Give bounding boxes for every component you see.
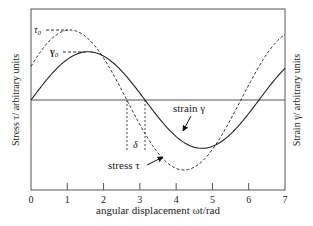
y-axis-right-label: Strain γ/ arbitrary units xyxy=(291,54,302,147)
y-axis-left-label: Stress τ/ arbitrary units xyxy=(10,54,21,146)
x-tick-label: 0 xyxy=(29,194,34,205)
strain-annotation-arrow xyxy=(183,116,191,131)
tau0-label: τ0 xyxy=(34,24,42,37)
stress-annotation-arrow xyxy=(147,157,163,165)
x-axis-label: angular displacement ωt/rad xyxy=(96,204,220,216)
x-axis-ticks xyxy=(67,183,248,190)
x-tick-label: 7 xyxy=(283,194,288,205)
x-tick-label: 6 xyxy=(246,194,251,205)
gamma0-label: γ0 xyxy=(49,46,59,59)
chart-figure: τ0 γ0 δ strain γ stress τ 01234567 angul… xyxy=(0,0,313,226)
x-tick-label: 1 xyxy=(65,194,70,205)
strain-annotation: strain γ xyxy=(173,102,205,114)
delta-label: δ xyxy=(133,139,138,150)
stress-annotation: stress τ xyxy=(108,159,140,171)
